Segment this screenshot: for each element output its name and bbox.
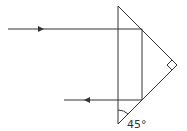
diagram-svg: 45° <box>0 0 187 131</box>
prism-diagram: 45° <box>0 0 187 131</box>
angle-label: 45° <box>127 118 147 131</box>
arrow-right-icon <box>38 26 44 32</box>
right-angle-marker <box>167 60 172 70</box>
prism <box>118 6 177 124</box>
angle-arc <box>118 110 128 114</box>
arrow-left-icon <box>84 97 90 103</box>
